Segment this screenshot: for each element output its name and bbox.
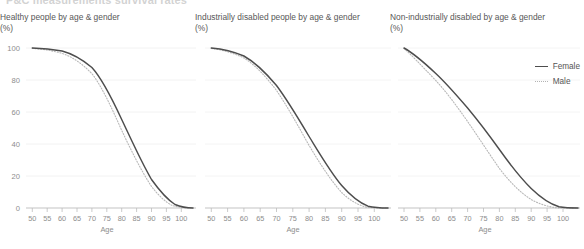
panel-title: Industrially disabled people by age & ge… bbox=[195, 12, 360, 23]
x-tick-50: 50 bbox=[207, 214, 215, 223]
x-tick-80: 80 bbox=[495, 214, 503, 223]
x-tick-95: 95 bbox=[543, 214, 551, 223]
x-axis-ticks bbox=[211, 208, 374, 212]
plot-area: 100 80 60 40 20 0 50 55 60 65 70 75 80 8… bbox=[0, 38, 200, 218]
x-tick-70: 70 bbox=[88, 214, 96, 223]
x-tick-75: 75 bbox=[479, 214, 487, 223]
x-tick-50: 50 bbox=[400, 214, 408, 223]
panel-title: Non-industrially disabled by age & gende… bbox=[390, 12, 545, 23]
y-tick-20: 20 bbox=[0, 172, 20, 181]
x-tick-55: 55 bbox=[416, 214, 424, 223]
x-tick-95: 95 bbox=[354, 214, 362, 223]
legend-swatch-female-icon bbox=[535, 66, 548, 67]
legend-label-female: Female bbox=[553, 62, 580, 71]
x-tick-60: 60 bbox=[432, 214, 440, 223]
x-tick-75: 75 bbox=[103, 214, 111, 223]
x-axis-ticks bbox=[404, 208, 563, 212]
y-tick-100: 100 bbox=[0, 44, 20, 53]
x-tick-65: 65 bbox=[256, 214, 264, 223]
chart-legend: Female Male bbox=[535, 60, 580, 90]
legend-swatch-male-icon bbox=[535, 81, 548, 82]
x-tick-70: 70 bbox=[464, 214, 472, 223]
x-tick-60: 60 bbox=[58, 214, 66, 223]
x-axis-label: Age bbox=[286, 225, 299, 234]
x-tick-75: 75 bbox=[289, 214, 297, 223]
x-tick-80: 80 bbox=[118, 214, 126, 223]
x-axis-ticks bbox=[32, 208, 181, 212]
x-tick-70: 70 bbox=[272, 214, 280, 223]
series-line-male bbox=[211, 49, 388, 209]
x-tick-50: 50 bbox=[28, 214, 36, 223]
x-tick-90: 90 bbox=[338, 214, 346, 223]
y-tick-80: 80 bbox=[0, 76, 20, 85]
series-line-male bbox=[32, 48, 193, 208]
x-tick-65: 65 bbox=[73, 214, 81, 223]
plot-svg bbox=[0, 38, 200, 218]
x-tick-55: 55 bbox=[43, 214, 51, 223]
panel-title: Healthy people by age & gender bbox=[0, 12, 120, 23]
panel-subtitle: (%) bbox=[195, 23, 208, 34]
chart-panels: Healthy people by age & gender (%) bbox=[0, 12, 584, 249]
y-tick-0: 0 bbox=[0, 204, 20, 213]
x-tick-85: 85 bbox=[133, 214, 141, 223]
legend-item-female[interactable]: Female bbox=[535, 60, 580, 72]
x-tick-60: 60 bbox=[240, 214, 248, 223]
legend-label-male: Male bbox=[553, 77, 571, 86]
y-tick-40: 40 bbox=[0, 140, 20, 149]
x-tick-100: 100 bbox=[368, 214, 380, 223]
x-tick-85: 85 bbox=[511, 214, 519, 223]
x-axis-label: Age bbox=[478, 225, 491, 234]
x-tick-55: 55 bbox=[224, 214, 232, 223]
panel-subtitle: (%) bbox=[0, 23, 13, 34]
chart-panel-healthy: Healthy people by age & gender (%) bbox=[0, 12, 200, 249]
x-tick-85: 85 bbox=[321, 214, 329, 223]
panel-subtitle: (%) bbox=[390, 23, 403, 34]
legend-item-male[interactable]: Male bbox=[535, 75, 580, 87]
x-tick-95: 95 bbox=[162, 214, 170, 223]
x-tick-100: 100 bbox=[557, 214, 569, 223]
gridlines bbox=[26, 48, 196, 176]
x-tick-100: 100 bbox=[175, 214, 187, 223]
x-tick-90: 90 bbox=[527, 214, 535, 223]
page-title: P&C measurements survival rates bbox=[6, 0, 187, 6]
plot-area: 50 55 60 65 70 75 80 85 90 95 100 Age bbox=[195, 38, 395, 218]
x-tick-80: 80 bbox=[305, 214, 313, 223]
x-tick-90: 90 bbox=[147, 214, 155, 223]
chart-panel-industrially-disabled: Industrially disabled people by age & ge… bbox=[195, 12, 395, 249]
x-tick-65: 65 bbox=[448, 214, 456, 223]
gridlines bbox=[205, 48, 391, 176]
chart-panel-non-industrially-disabled: Non-industrially disabled by age & gende… bbox=[390, 12, 584, 249]
chart-page: P&C measurements survival rates Healthy … bbox=[0, 0, 584, 249]
y-tick-60: 60 bbox=[0, 108, 20, 117]
plot-svg bbox=[195, 38, 395, 218]
x-axis-label: Age bbox=[100, 225, 113, 234]
series-line-female bbox=[32, 48, 193, 208]
